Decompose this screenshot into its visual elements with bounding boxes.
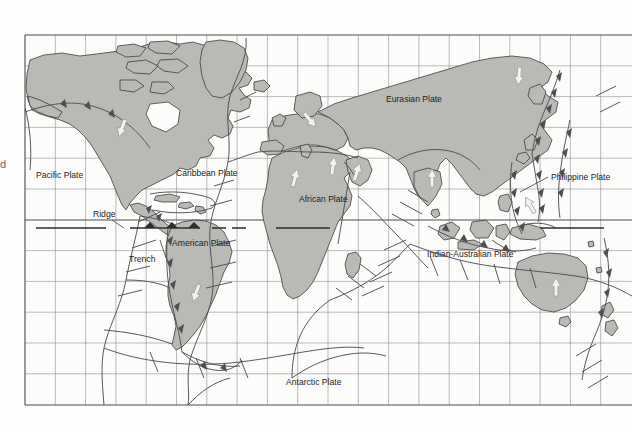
label-caribbean-plate: Caribbean Plate xyxy=(176,168,238,178)
label-trench: Trench xyxy=(129,254,156,264)
world-map-svg: Pacific Plate Caribbean Plate American P… xyxy=(0,0,632,428)
land-pacific-isle-1 xyxy=(596,267,602,273)
label-pacific-plate: Pacific Plate xyxy=(36,170,84,180)
land-pacific-isle-2 xyxy=(588,241,594,247)
label-philippine-plate: Philippine Plate xyxy=(551,172,610,182)
label-african-plate: African Plate xyxy=(299,194,348,204)
cropped-edge-text-fragment: d xyxy=(0,158,8,170)
label-antarctic-plate: Antarctic Plate xyxy=(286,377,342,387)
label-american-plate: American Plate xyxy=(172,238,230,248)
label-indian-australian-plate: Indian-Australian Plate xyxy=(427,249,514,259)
label-ridge: Ridge xyxy=(93,209,116,219)
label-eurasian-plate: Eurasian Plate xyxy=(386,94,442,104)
plate-tectonics-figure: d xyxy=(0,0,632,428)
